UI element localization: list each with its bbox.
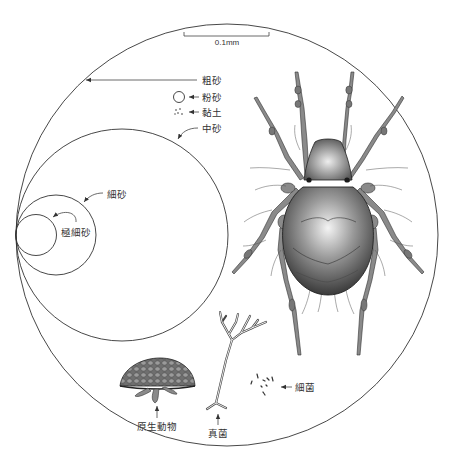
very-fine-sand-label: 極細砂 bbox=[61, 227, 91, 238]
mite-body bbox=[283, 187, 374, 295]
medium-sand-circle bbox=[16, 129, 228, 341]
silt-annotation: 粉砂 bbox=[174, 92, 223, 104]
fine-sand-annotation: 細砂 bbox=[84, 189, 127, 202]
clay-particles bbox=[174, 108, 183, 115]
fungi-label: 真菌 bbox=[208, 428, 228, 439]
bacteria-annotation: 細菌 bbox=[281, 382, 315, 393]
clay-label: 黏土 bbox=[202, 107, 222, 118]
clay-annotation: 黏土 bbox=[174, 107, 222, 118]
very-fine-sand-circle bbox=[16, 215, 57, 256]
arrow-icon bbox=[53, 212, 76, 222]
arrow-icon bbox=[84, 193, 103, 202]
protozoa-illustration bbox=[120, 358, 195, 403]
soil-particle-diagram: 0.1mm 粗砂 粉砂 黏土 中砂 細砂 極細砂 bbox=[0, 0, 454, 461]
medium-sand-label: 中砂 bbox=[202, 123, 222, 134]
fungi-annotation: 真菌 bbox=[208, 414, 228, 439]
medium-sand-annotation: 中砂 bbox=[178, 123, 222, 139]
silt-particle bbox=[174, 92, 185, 103]
bacteria-illustration bbox=[251, 374, 273, 395]
scale-bar: 0.1mm bbox=[184, 32, 269, 47]
mite-eye-right bbox=[344, 177, 349, 182]
arrow-icon bbox=[178, 128, 198, 139]
scale-bar-label: 0.1mm bbox=[215, 38, 240, 47]
coarse-sand-label: 粗砂 bbox=[202, 75, 222, 86]
protozoa-label: 原生動物 bbox=[137, 421, 177, 432]
bacteria-label: 細菌 bbox=[295, 382, 315, 393]
mite-illustration bbox=[232, 72, 424, 355]
silt-label: 粉砂 bbox=[202, 92, 222, 103]
fungi-illustration bbox=[207, 312, 266, 409]
very-fine-sand-annotation: 極細砂 bbox=[53, 212, 91, 238]
protozoa-annotation: 原生動物 bbox=[137, 406, 177, 432]
fine-sand-label: 細砂 bbox=[107, 189, 127, 200]
coarse-sand-annotation: 粗砂 bbox=[86, 75, 222, 86]
mite-eye-left bbox=[306, 177, 311, 182]
